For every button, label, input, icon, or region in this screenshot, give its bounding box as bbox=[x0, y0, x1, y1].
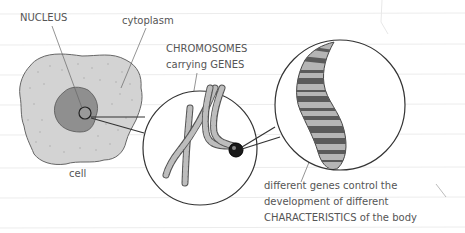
cell-label: cell bbox=[69, 169, 86, 179]
stray-mark bbox=[436, 184, 446, 197]
nucleus-label: NUCLEUS bbox=[20, 13, 67, 23]
cytoplasm-label: cytoplasm bbox=[122, 16, 174, 26]
genes-caption-line2: development of different bbox=[264, 197, 388, 207]
gene-zoom-marker bbox=[229, 143, 243, 157]
chromosomes-label-line1: CHROMOSOMES bbox=[166, 44, 247, 54]
gene-marker-highlight bbox=[232, 146, 236, 150]
chromosomes-label-line2: carrying GENES bbox=[166, 60, 244, 70]
diagram-canvas: NUCLEUS cytoplasm cell CHROMOSOMES carry… bbox=[0, 0, 465, 233]
genes-caption-line3: CHARACTERISTICS of the body bbox=[264, 213, 417, 223]
diagram-illustration bbox=[0, 0, 465, 233]
cell bbox=[20, 54, 142, 165]
nucleus-zoom-marker bbox=[79, 107, 91, 119]
genes-caption-line1: different genes control the bbox=[264, 181, 397, 191]
margin-mark bbox=[381, 0, 388, 34]
